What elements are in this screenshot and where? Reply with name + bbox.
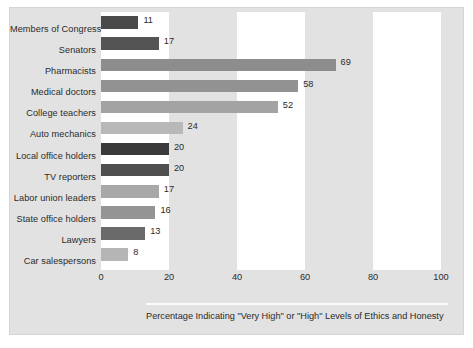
bar[interactable]: [101, 206, 155, 218]
bar-chart: Members of CongressSenatorsPharmacistsMe…: [10, 8, 465, 294]
bar[interactable]: [101, 37, 159, 49]
bar-row: 17: [101, 181, 441, 202]
figure-frame: Members of CongressSenatorsPharmacistsMe…: [9, 7, 464, 335]
x-axis-ticks: 020406080100: [101, 272, 441, 286]
bar-value-label: 13: [150, 226, 160, 236]
bar-value-label: 20: [174, 142, 184, 152]
category-label: Medical doctors: [10, 82, 96, 103]
bar-row: 16: [101, 202, 441, 223]
bar-value-label: 8: [133, 247, 138, 257]
bar-row: 52: [101, 96, 441, 117]
x-tick-label: 100: [433, 272, 448, 282]
bar-row: 24: [101, 117, 441, 138]
bar-value-label: 17: [164, 184, 174, 194]
caption-divider: [146, 303, 448, 305]
bar-value-label: 11: [143, 15, 153, 25]
category-label: Members of Congress: [10, 19, 96, 40]
bar-row: 17: [101, 33, 441, 54]
bar[interactable]: [101, 248, 128, 260]
x-tick-label: 20: [164, 272, 174, 282]
bar-row: 20: [101, 160, 441, 181]
bar-value-label: 20: [174, 163, 184, 173]
category-label: Senators: [10, 40, 96, 61]
category-label: College teachers: [10, 103, 96, 124]
bar-row: 13: [101, 223, 441, 244]
category-axis-labels: Members of CongressSenatorsPharmacistsMe…: [10, 19, 96, 272]
x-tick-label: 40: [232, 272, 242, 282]
bar-series: 11176958522420201716138: [101, 12, 441, 270]
category-label: Labor union leaders: [10, 188, 96, 209]
chart-caption: Percentage Indicating "Very High" or "Hi…: [146, 311, 456, 321]
category-label: Local office holders: [10, 146, 96, 167]
bar-row: 8: [101, 244, 441, 265]
bar-value-label: 69: [341, 57, 351, 67]
x-tick-label: 60: [300, 272, 310, 282]
bar[interactable]: [101, 101, 278, 113]
x-tick-label: 80: [368, 272, 378, 282]
bar-value-label: 52: [283, 100, 293, 110]
x-tick-label: 0: [98, 272, 103, 282]
category-label: TV reporters: [10, 167, 96, 188]
bar-value-label: 24: [188, 121, 198, 131]
category-label: Auto mechanics: [10, 124, 96, 145]
bar[interactable]: [101, 16, 138, 28]
bar[interactable]: [101, 227, 145, 239]
bar-row: 20: [101, 139, 441, 160]
bar-row: 69: [101, 54, 441, 75]
bar[interactable]: [101, 122, 183, 134]
bar-value-label: 58: [303, 79, 313, 89]
bar[interactable]: [101, 185, 159, 197]
bar-value-label: 17: [164, 36, 174, 46]
bar[interactable]: [101, 143, 169, 155]
bar-row: 11: [101, 12, 441, 33]
plot-area: 11176958522420201716138: [101, 12, 441, 270]
category-label: Car salespersons: [10, 251, 96, 272]
category-label: Lawyers: [10, 230, 96, 251]
bar[interactable]: [101, 80, 298, 92]
bar[interactable]: [101, 164, 169, 176]
bar-value-label: 16: [160, 205, 170, 215]
bar[interactable]: [101, 59, 336, 71]
category-label: Pharmacists: [10, 61, 96, 82]
category-label: State office holders: [10, 209, 96, 230]
bar-row: 58: [101, 75, 441, 96]
